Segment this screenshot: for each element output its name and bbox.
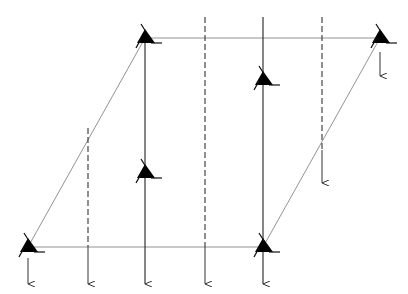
triangle-marker-bottom-right-corner xyxy=(254,233,280,257)
triangle-marker-top-left-corner xyxy=(136,24,162,48)
short-arrows xyxy=(28,52,380,284)
triangle-marker-top-right-corner xyxy=(371,24,397,48)
triangle-tick-bottom xyxy=(254,81,259,90)
triangle-marker-bottom-left-corner xyxy=(19,233,45,257)
triangle-tick-top xyxy=(376,24,381,32)
parallelogram-outline xyxy=(28,38,380,247)
triangle-marker-center-right xyxy=(254,66,280,90)
triangle-tick-bottom xyxy=(19,248,24,257)
vertical-lines xyxy=(88,17,322,284)
lattice-diagram xyxy=(0,0,408,294)
triangle-tick-bottom xyxy=(136,174,141,183)
parallelogram-edge xyxy=(28,38,380,247)
triangle-marker-center-left xyxy=(136,159,162,183)
triangle-tick-top xyxy=(141,24,146,32)
diagram-svg xyxy=(0,0,408,294)
triangle-tick-top xyxy=(24,233,29,241)
triangle-tick-bottom xyxy=(254,248,259,257)
triangle-markers xyxy=(19,24,397,257)
